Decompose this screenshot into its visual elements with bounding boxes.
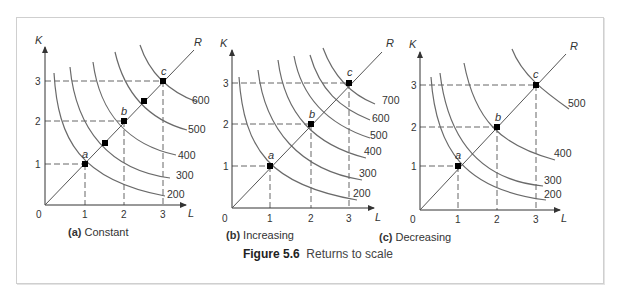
svg-text:3: 3: [160, 209, 166, 220]
svg-text:R: R: [386, 37, 394, 49]
svg-text:c: c: [533, 68, 539, 80]
svg-text:a: a: [268, 149, 274, 161]
svg-text:2: 2: [121, 209, 127, 220]
panel-b-chart: a b c K R L 0 1 2 3 1 2 3 200 300 400 50…: [220, 37, 400, 224]
svg-text:400: 400: [364, 145, 382, 157]
svg-text:3: 3: [35, 76, 41, 87]
svg-text:a: a: [455, 149, 461, 161]
svg-text:K: K: [409, 38, 417, 50]
svg-text:1: 1: [82, 209, 88, 220]
svg-text:400: 400: [554, 147, 572, 159]
svg-text:300: 300: [176, 169, 194, 181]
svg-text:2: 2: [223, 119, 229, 130]
svg-text:3: 3: [223, 78, 229, 89]
svg-text:0: 0: [222, 213, 228, 224]
figure-caption: Figure 5.6 Returns to scale: [0, 247, 636, 261]
svg-text:K: K: [220, 37, 228, 49]
svg-text:1: 1: [455, 214, 461, 225]
svg-text:200: 200: [544, 188, 562, 200]
svg-text:b: b: [121, 105, 127, 117]
svg-text:1: 1: [267, 213, 273, 224]
svg-text:200: 200: [353, 187, 371, 199]
svg-text:300: 300: [544, 174, 562, 186]
svg-text:500: 500: [568, 97, 586, 109]
svg-text:b: b: [309, 108, 315, 120]
svg-text:3: 3: [346, 213, 352, 224]
svg-text:0: 0: [410, 214, 416, 225]
svg-text:a: a: [82, 148, 88, 160]
panel-c-subtitle: (c) Decreasing: [379, 231, 451, 243]
svg-text:500: 500: [370, 129, 388, 141]
svg-text:K: K: [35, 34, 43, 46]
svg-text:2: 2: [494, 214, 500, 225]
svg-text:L: L: [375, 211, 381, 223]
svg-text:L: L: [561, 212, 567, 224]
svg-text:600: 600: [192, 94, 210, 106]
svg-text:R: R: [570, 40, 578, 52]
panel-c-chart: a b c K R L 0 1 2 3 1 2 3 200 300 400 50…: [409, 38, 586, 225]
svg-text:300: 300: [359, 167, 377, 179]
svg-text:200: 200: [167, 188, 185, 200]
svg-text:2: 2: [35, 116, 41, 127]
svg-text:500: 500: [188, 123, 206, 135]
svg-text:700: 700: [382, 94, 400, 106]
svg-text:c: c: [161, 65, 167, 77]
svg-text:b: b: [495, 111, 501, 123]
svg-text:c: c: [347, 66, 353, 78]
svg-text:1: 1: [411, 161, 417, 172]
svg-text:600: 600: [372, 112, 390, 124]
svg-text:1: 1: [35, 159, 41, 170]
svg-text:3: 3: [411, 80, 417, 91]
svg-text:400: 400: [178, 149, 196, 161]
svg-text:0: 0: [36, 209, 42, 220]
svg-text:2: 2: [411, 122, 417, 133]
svg-text:L: L: [188, 207, 194, 219]
svg-text:R: R: [194, 36, 202, 48]
panel-a-subtitle: (a) Constant: [68, 226, 129, 238]
svg-text:1: 1: [223, 161, 229, 172]
panel-a-chart: a b c K R L 0 1 2 3 1 2 3 200 300 400 50…: [35, 34, 210, 220]
svg-text:3: 3: [533, 214, 539, 225]
panel-b-subtitle: (b) Increasing: [226, 229, 294, 241]
svg-text:2: 2: [308, 213, 314, 224]
